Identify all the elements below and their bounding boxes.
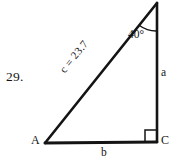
angle-label-b: 40° bbox=[128, 29, 144, 41]
vertex-label-a: A bbox=[31, 134, 40, 146]
triangle-figure: 29. A C a b c = 23.7 40° bbox=[0, 0, 173, 164]
side-b-line bbox=[45, 142, 157, 143]
triangle-drawing bbox=[0, 0, 173, 164]
side-label-a: a bbox=[161, 67, 166, 79]
hypotenuse-line bbox=[45, 3, 157, 143]
problem-number: 29. bbox=[6, 70, 23, 84]
right-angle-marker-icon bbox=[145, 130, 157, 142]
side-label-b: b bbox=[101, 147, 107, 159]
vertex-label-c: C bbox=[161, 134, 169, 146]
